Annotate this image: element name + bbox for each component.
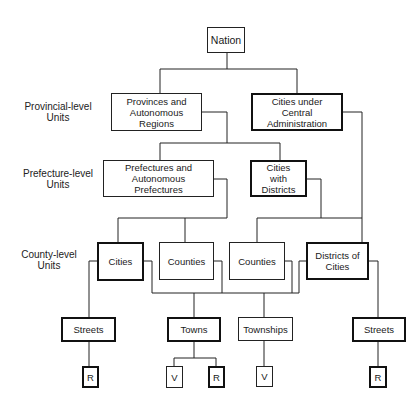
node-v-2: V (256, 366, 273, 387)
connector-towns-vr (174, 358, 216, 366)
connector-provincial-bus (160, 69, 297, 93)
connector-counties1-bus (214, 261, 222, 293)
connector-lines (0, 0, 420, 410)
node-v-1: V (166, 366, 183, 388)
connector-prefectures (214, 179, 227, 218)
connector-cities-streets (89, 261, 97, 317)
node-central-cities: Cities under Central Administration (251, 93, 343, 131)
node-towns: Towns (167, 317, 221, 342)
node-townships: Townships (238, 317, 293, 341)
connector-central-cities (343, 112, 362, 242)
node-nation: Nation (207, 27, 245, 53)
connector-districts-streets (369, 261, 378, 317)
node-prefectures: Prefectures and Autonomous Prefectures (103, 160, 214, 197)
node-streets-2: Streets (352, 317, 406, 342)
connector-prefecture-bus (160, 143, 280, 160)
connector-county-bus-left (118, 218, 227, 242)
node-provinces: Provinces and Autonomous Regions (111, 93, 202, 131)
node-r-3: R (369, 366, 387, 388)
node-r-2: R (208, 366, 225, 388)
level-label-provincial: Provincial-level Units (18, 101, 98, 123)
node-cities: Cities (97, 242, 144, 281)
node-counties-1: Counties (159, 242, 214, 280)
connector-county-bus-right (257, 218, 362, 242)
level-label-prefecture: Prefecture-level Units (14, 168, 102, 190)
node-districts-of-cities: Districts of Cities (306, 242, 369, 280)
connector-districts-bus (299, 261, 306, 293)
node-counties-2: Counties (229, 242, 285, 280)
connector-counties2-bus (285, 261, 292, 293)
level-label-county: County-level Units (18, 249, 80, 271)
node-r-1: R (82, 366, 99, 388)
node-cities-with-districts: Cities with Districts (250, 160, 307, 197)
connector-cities-with-districts (307, 179, 321, 218)
connector-provinces (202, 112, 227, 143)
node-streets-1: Streets (61, 317, 116, 342)
